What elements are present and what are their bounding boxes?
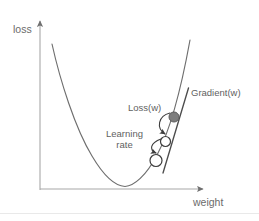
- step-point-marker-2: [150, 155, 162, 167]
- x-axis-label: weight: [193, 197, 223, 209]
- gradient-descent-figure: loss weight Gradient(w) Loss(w) Learning…: [0, 0, 259, 221]
- bottom-divider: [0, 213, 259, 214]
- y-axis-label: loss: [13, 24, 32, 36]
- learning-rate-annotation-label: Learning rate: [98, 129, 151, 150]
- gradient-tangent-line: [163, 88, 189, 173]
- learning-rate-label-line-2: rate: [98, 140, 151, 151]
- step-point-marker-1: [161, 137, 171, 147]
- learning-rate-step-arrow-1: [159, 113, 170, 134]
- loss-w-point-marker: [169, 112, 179, 122]
- gradient-annotation-label: Gradient(w): [191, 88, 241, 99]
- loss-w-annotation-label: Loss(w): [128, 103, 161, 114]
